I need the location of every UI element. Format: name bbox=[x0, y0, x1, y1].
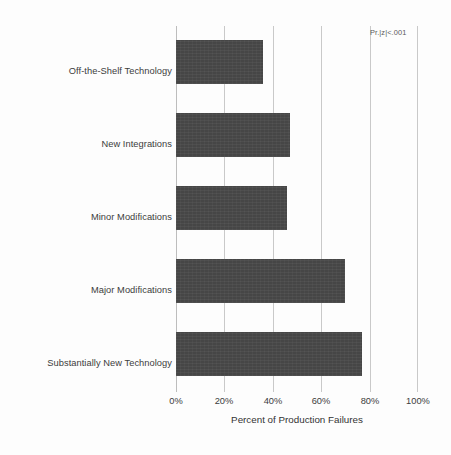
plot-area bbox=[176, 26, 418, 392]
significance-annotation: Pr.|z|<.001 bbox=[370, 28, 406, 37]
y-axis-label-3: Major Modifications bbox=[4, 285, 172, 295]
bar-chart-figure: Off-the-Shelf Technology New Integration… bbox=[0, 0, 451, 455]
gridline-100 bbox=[417, 26, 418, 392]
y-axis-label-1: New Integrations bbox=[4, 139, 172, 149]
x-axis-tick-labels: 0% 20% 40% 60% 80% 100% bbox=[0, 396, 451, 412]
bar-new-integrations bbox=[176, 113, 290, 157]
bar-minor-modifications bbox=[176, 186, 287, 230]
gridline-80 bbox=[370, 26, 371, 392]
y-axis-label-0: Off-the-Shelf Technology bbox=[4, 66, 172, 76]
x-tick-label-20: 20% bbox=[215, 396, 234, 406]
bar-major-modifications bbox=[176, 259, 345, 303]
x-tick-label-80: 80% bbox=[361, 396, 380, 406]
y-axis-label-4: Substantially New Technology bbox=[4, 358, 172, 368]
x-tick-label-100: 100% bbox=[406, 396, 430, 406]
x-tick-label-40: 40% bbox=[264, 396, 283, 406]
x-tick-label-0: 0% bbox=[169, 396, 182, 406]
x-axis-title: Percent of Production Failures bbox=[176, 414, 418, 425]
y-axis-category-labels: Off-the-Shelf Technology New Integration… bbox=[0, 26, 172, 392]
x-tick-label-60: 60% bbox=[312, 396, 331, 406]
bar-substantially-new-technology bbox=[176, 332, 362, 376]
y-axis-label-2: Minor Modifications bbox=[4, 212, 172, 222]
bar-off-the-shelf-technology bbox=[176, 40, 263, 84]
